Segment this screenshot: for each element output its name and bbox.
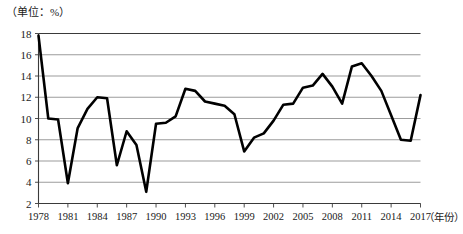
x-axis-tick-label: 2008 (322, 211, 343, 222)
x-axis-tick-label: 1978 (28, 211, 49, 222)
data-series-line-group (39, 36, 421, 192)
y-axis-tick-label: 12 (21, 91, 32, 103)
x-axis-tick-label: 1984 (87, 211, 109, 222)
line-chart-plot: 24681012141618 1978198119841987199019931… (0, 0, 463, 234)
y-axis-tick-label: 18 (21, 28, 33, 40)
chart-figure: （单位：%） 24681012141618 197819811984198719… (0, 0, 463, 234)
y-axis-tick-label: 14 (21, 70, 33, 82)
y-axis-tick-label: 10 (21, 113, 33, 125)
x-axis-tick-label: 1981 (57, 211, 78, 222)
x-axis-tick-group: 1978198119841987199019931996199920022005… (28, 204, 431, 222)
x-axis-tick-label: 2002 (263, 211, 284, 222)
y-axis-tick-label: 8 (26, 134, 32, 146)
x-axis-tick-label: 1990 (146, 211, 167, 222)
y-axis-tick-group: 24681012141618 (21, 28, 39, 210)
x-axis-tick-label: 2014 (381, 211, 403, 222)
data-series-line (39, 36, 421, 192)
x-axis-tick-label: 1993 (175, 211, 196, 222)
x-axis-tick-label: 1999 (234, 211, 255, 222)
y-axis-tick-label: 4 (26, 176, 32, 188)
y-axis-tick-label: 2 (26, 198, 32, 210)
y-axis-tick-label: 16 (21, 49, 33, 61)
x-axis-tick-label: 1996 (204, 211, 225, 222)
y-axis-tick-label: 6 (26, 155, 32, 167)
x-axis-title: （年份） (424, 209, 463, 224)
x-axis-tick-label: 2005 (292, 211, 313, 222)
x-axis-tick-label: 1987 (116, 211, 137, 222)
gridlines-group (39, 34, 421, 204)
x-axis-tick-label: 2011 (351, 211, 372, 222)
